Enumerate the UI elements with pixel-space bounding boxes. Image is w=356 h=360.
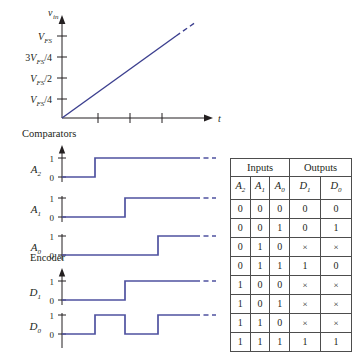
cell-a0: 0 — [270, 238, 290, 257]
cell-d0: 0 — [321, 200, 352, 219]
a1-waveform — [62, 198, 195, 217]
table-row: 1 1 1 1 1 — [231, 333, 352, 352]
cell-d0: 0 — [321, 257, 352, 276]
table-row: 0 0 0 0 0 — [231, 200, 352, 219]
cell-d1: × — [290, 238, 321, 257]
cell-a2: 1 — [231, 333, 251, 352]
table-row: 0 0 1 0 1 — [231, 219, 352, 238]
ramp-y-axis-label: vin — [48, 7, 59, 21]
d1-waveform — [62, 281, 195, 300]
ramp-plot: vin t VFS 3VFS/4 VFS/2 VFS/4 — [25, 7, 221, 124]
cell-d1: 0 — [290, 200, 321, 219]
d0-waveform — [62, 315, 195, 334]
a2-axis-arrowhead — [59, 145, 65, 154]
cell-d0: × — [321, 238, 352, 257]
table-body: 0 0 0 0 0 0 0 1 0 1 0 1 0 × × 0 — [231, 200, 352, 352]
table-col-d1: D1 — [290, 177, 321, 200]
comparator-a2-plot: 1 0 A2 — [30, 145, 216, 183]
cell-a0: 0 — [270, 200, 290, 219]
cell-a2: 0 — [231, 219, 251, 238]
cell-a1: 1 — [250, 314, 270, 333]
cell-d1: 0 — [290, 219, 321, 238]
a2-waveform — [62, 158, 195, 177]
ramp-x-axis-label: t — [218, 113, 221, 124]
table-col-d0: D0 — [321, 177, 352, 200]
truth-table: Inputs Outputs A2 A1 A0 D1 D0 0 0 0 0 0 … — [230, 158, 352, 352]
encoder-d1-plot: 1 0 D1 — [29, 268, 216, 306]
ramp-y-axis-arrowhead — [59, 15, 66, 24]
a1-high-label: 1 — [50, 194, 55, 204]
table-column-header-row: A2 A1 A0 D1 D0 — [231, 177, 352, 200]
table-col-a2: A2 — [231, 177, 251, 200]
ramp-line — [62, 36, 176, 118]
table-row: 0 1 1 1 0 — [231, 257, 352, 276]
table-col-a0: A0 — [270, 177, 290, 200]
cell-a2: 0 — [231, 200, 251, 219]
ramp-x-axis-arrowhead — [204, 115, 213, 122]
table-row: 1 1 0 × × — [231, 314, 352, 333]
table-row: 1 0 1 × × — [231, 295, 352, 314]
cell-d0: × — [321, 276, 352, 295]
a1-signal-label: A1 — [30, 203, 41, 218]
a0-waveform — [62, 236, 195, 255]
d1-low-label: 0 — [50, 296, 55, 306]
ramp-ylabel-vfs2: VFS/2 — [30, 73, 52, 87]
table-group-header-outputs: Outputs — [290, 159, 352, 177]
d1-axis-arrowhead — [59, 268, 65, 277]
cell-d1: × — [290, 314, 321, 333]
cell-d1: 1 — [290, 257, 321, 276]
ramp-ylabel-3vfs4: 3VFS/4 — [25, 52, 52, 66]
cell-a1: 0 — [250, 200, 270, 219]
cell-d1: × — [290, 276, 321, 295]
cell-a1: 1 — [250, 257, 270, 276]
cell-a2: 1 — [231, 314, 251, 333]
cell-d0: 1 — [321, 333, 352, 352]
comparators-section-title: Comparators — [22, 128, 76, 139]
table-group-header-row: Inputs Outputs — [231, 159, 352, 177]
cell-d1: × — [290, 295, 321, 314]
cell-a1: 0 — [250, 219, 270, 238]
figure-container: vin t VFS 3VFS/4 VFS/2 VFS/4 Comparators — [0, 0, 356, 360]
table-col-a1: A1 — [250, 177, 270, 200]
d1-signal-label: D1 — [29, 286, 41, 301]
cell-a1: 0 — [250, 295, 270, 314]
cell-d0: × — [321, 314, 352, 333]
d0-signal-label: D0 — [29, 320, 42, 335]
cell-a0: 1 — [270, 257, 290, 276]
encoder-section-title: Encoder — [30, 252, 65, 263]
a2-high-label: 1 — [50, 154, 55, 164]
cell-a2: 0 — [231, 238, 251, 257]
a2-signal-label: A2 — [30, 163, 42, 178]
cell-a0: 0 — [270, 314, 290, 333]
cell-d1: 1 — [290, 333, 321, 352]
cell-a2: 0 — [231, 257, 251, 276]
d0-low-label: 0 — [50, 330, 55, 340]
table-row: 0 1 0 × × — [231, 238, 352, 257]
cell-a2: 1 — [231, 276, 251, 295]
cell-d0: 1 — [321, 219, 352, 238]
table-row: 1 0 0 × × — [231, 276, 352, 295]
cell-a0: 1 — [270, 333, 290, 352]
a0-high-label: 1 — [50, 232, 55, 242]
cell-a0: 0 — [270, 276, 290, 295]
cell-a1: 1 — [250, 333, 270, 352]
comparator-a1-plot: 1 0 A1 — [30, 194, 216, 223]
encoder-d0-plot: 1 0 D0 — [29, 311, 216, 349]
cell-a0: 1 — [270, 219, 290, 238]
cell-d0: × — [321, 295, 352, 314]
ramp-ylabel-vfs: VFS — [38, 31, 52, 45]
cell-a2: 1 — [231, 295, 251, 314]
cell-a1: 0 — [250, 276, 270, 295]
ramp-ylabel-vfs4: VFS/4 — [30, 94, 52, 108]
a2-low-label: 0 — [50, 173, 55, 183]
cell-a0: 1 — [270, 295, 290, 314]
ramp-line-extension — [176, 22, 196, 36]
table-group-header-inputs: Inputs — [231, 159, 290, 177]
cell-a1: 1 — [250, 238, 270, 257]
d1-high-label: 1 — [50, 277, 55, 287]
a1-low-label: 0 — [50, 213, 55, 223]
d0-high-label: 1 — [50, 311, 55, 321]
